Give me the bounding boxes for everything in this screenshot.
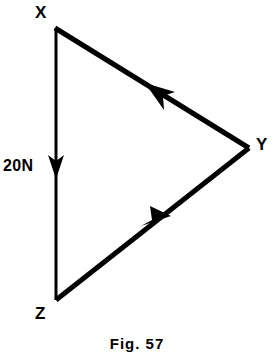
vector-triangle-diagram bbox=[0, 0, 274, 352]
vertex-label-z: Z bbox=[35, 305, 45, 322]
vertex-label-x: X bbox=[35, 4, 46, 21]
force-magnitude-label: 20N bbox=[3, 158, 34, 174]
edge-yx-group bbox=[55, 28, 249, 148]
edge-zy-line bbox=[56, 148, 249, 300]
vertex-label-y: Y bbox=[256, 136, 267, 153]
edge-yx-arrowhead-icon bbox=[145, 83, 175, 110]
figure-caption: Fig. 57 bbox=[0, 336, 274, 351]
figure-container: X Y Z 20N Fig. 57 bbox=[0, 0, 274, 352]
edge-zy-group bbox=[56, 148, 249, 300]
edge-xz-group bbox=[48, 28, 64, 300]
